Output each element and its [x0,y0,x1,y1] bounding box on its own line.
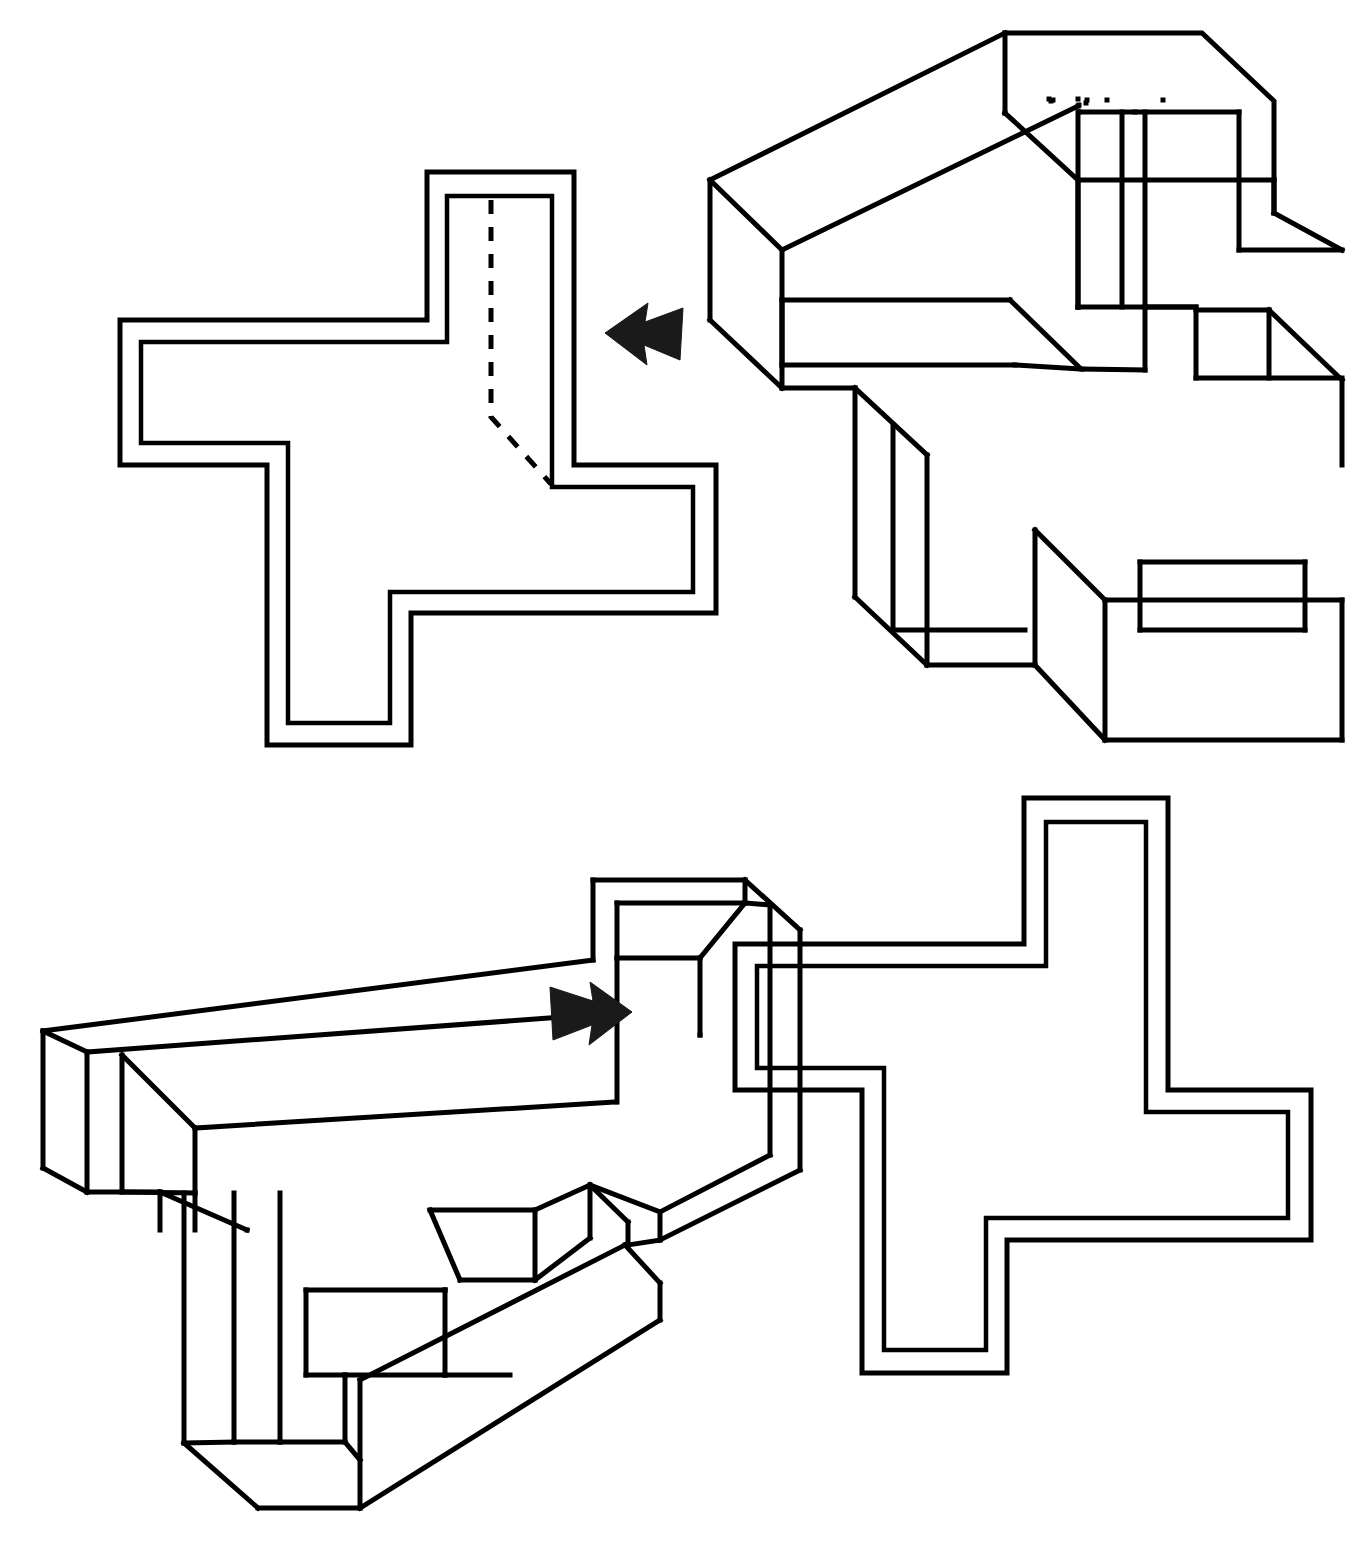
right-arrow-icon [550,982,632,1045]
arrows-layer [0,0,1363,1555]
left-arrow-icon [605,303,683,365]
figure-sheet [0,0,1363,1555]
